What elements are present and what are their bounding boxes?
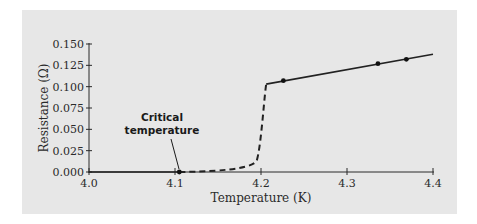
resistance-temperature-chart: 0.0000.0250.0500.0750.1000.1250.150 4.04… (0, 0, 477, 224)
x-axis-title: Temperature (K) (211, 191, 312, 205)
annotation-pointer (171, 139, 179, 169)
critical-temperature-annotation: Critical temperature (125, 111, 200, 169)
annotation-line-1: Critical (141, 111, 183, 123)
x-tick-label: 4.0 (80, 177, 98, 190)
x-tick-label: 4.3 (338, 177, 356, 190)
y-tick-label: 0.075 (53, 102, 85, 115)
data-point (281, 78, 286, 83)
y-ticks: 0.0000.0250.0500.0750.1000.1250.150 (53, 38, 93, 179)
x-tick-label: 4.1 (166, 177, 184, 190)
y-axis-title: Resistance (Ω) (37, 64, 51, 153)
y-tick-label: 0.100 (53, 81, 85, 94)
y-tick-label: 0.050 (53, 123, 85, 136)
data-point (404, 57, 409, 62)
data-points (177, 57, 409, 174)
y-tick-label: 0.125 (53, 59, 85, 72)
y-tick-label: 0.025 (53, 145, 85, 158)
data-point (177, 170, 182, 175)
annotation-line-2: temperature (125, 124, 200, 136)
x-tick-label: 4.4 (424, 177, 442, 190)
data-point (376, 61, 381, 66)
x-tick-label: 4.2 (252, 177, 270, 190)
y-tick-label: 0.150 (53, 38, 85, 51)
